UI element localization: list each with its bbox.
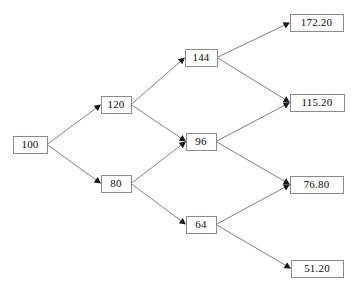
tree-edge [217,58,290,103]
tree-edge [131,184,186,225]
arrowhead-icon [179,142,186,149]
tree-edge [131,105,186,142]
tree-node-n1d[interactable]: 80 [102,176,132,193]
node-value-label: 115.20 [301,96,332,108]
tree-node-n2ud[interactable]: 96 [187,134,217,151]
tree-edge [131,142,186,184]
arrowhead-icon [94,177,101,184]
tree-node-n3udd[interactable]: 76.80 [291,177,344,194]
node-value-label: 100 [21,138,38,150]
tree-node-n0[interactable]: 100 [14,137,48,154]
arrowhead-icon [94,105,101,112]
node-value-label: 80 [110,177,122,189]
tree-edge [47,105,101,145]
tree-node-n3uuu[interactable]: 172.20 [291,15,344,32]
tree-node-n2dd[interactable]: 64 [187,217,217,234]
node-value-label: 96 [195,135,207,147]
tree-edge [47,145,101,184]
node-value-label: 172.20 [301,16,333,28]
tree-edge [216,225,291,269]
tree-edge [216,142,290,185]
tree-node-n1u[interactable]: 120 [102,97,132,114]
node-value-label: 51.20 [304,262,330,274]
tree-edge [216,185,290,225]
tree-canvas: 100120801449664172.20115.2076.8051.20 [0,0,355,288]
tree-edge [131,58,185,105]
tree-node-n2uu[interactable]: 144 [186,50,218,67]
nodes-layer: 100120801449664172.20115.2076.8051.20 [14,15,345,278]
arrowhead-icon [283,96,290,102]
node-value-label: 144 [192,51,209,63]
tree-node-n3uud[interactable]: 115.20 [291,95,345,112]
arrowhead-icon [179,135,186,141]
tree-node-n3ddd[interactable]: 51.20 [292,261,344,278]
node-value-label: 76.80 [304,178,330,190]
arrowhead-icon [179,218,186,225]
node-value-label: 64 [195,218,207,230]
tree-edge [216,103,290,142]
edges-layer [47,22,291,268]
node-value-label: 120 [107,98,124,110]
binomial-tree-diagram: 100120801449664172.20115.2076.8051.20 [0,0,355,288]
tree-edge [217,22,290,57]
